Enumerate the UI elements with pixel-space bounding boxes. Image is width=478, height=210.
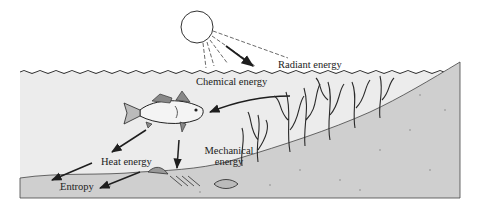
- sun-rays: [203, 31, 288, 68]
- label-radiant-energy: Radiant energy: [278, 59, 342, 70]
- label-mechanical-line2: energy: [197, 156, 261, 167]
- label-mechanical-line1: Mechanical: [197, 145, 261, 156]
- label-mechanical-energy: Mechanical energy: [197, 145, 261, 167]
- label-chemical-energy: Chemical energy: [196, 76, 267, 87]
- label-heat-energy: Heat energy: [101, 156, 152, 167]
- sun-icon: [181, 11, 213, 43]
- energy-flow-diagram: [0, 0, 478, 210]
- radiant-arrow: [226, 46, 253, 66]
- label-entropy: Entropy: [60, 181, 94, 192]
